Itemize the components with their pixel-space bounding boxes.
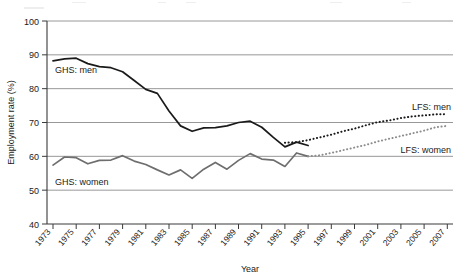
x-tick-label: 2007 <box>427 227 447 248</box>
x-tick-label: 1979 <box>102 227 122 248</box>
x-tick-label: 1995 <box>288 227 308 248</box>
x-tick-label: 1991 <box>241 227 261 248</box>
y-tick-label: 90 <box>29 50 39 60</box>
y-tick-labels: 100 90 80 70 60 50 40 <box>24 17 39 230</box>
x-tick-label: 1977 <box>79 227 99 248</box>
x-tick-label: 1987 <box>195 227 215 248</box>
x-tick-label: 1997 <box>311 227 331 248</box>
series-label-lfs-men: LFS: men <box>412 102 451 112</box>
series-label-lfs-women: LFS: women <box>400 145 451 155</box>
x-tick-labels: 1973 1975 1977 1979 1981 1983 1985 1987 … <box>33 227 447 248</box>
x-tick-label: 1999 <box>334 227 354 248</box>
x-tick-label: 1975 <box>56 227 76 248</box>
y-tick-marks <box>42 21 47 224</box>
x-tick-label: 1981 <box>126 227 146 248</box>
x-tick-label: 1985 <box>172 227 192 248</box>
series-label-ghs-men: GHS: men <box>55 65 97 75</box>
y-tick-label: 100 <box>24 17 39 27</box>
y-axis-title: Employment rate (%) <box>6 80 16 165</box>
x-tick-label: 2005 <box>404 227 424 248</box>
x-tick-label: 1993 <box>265 227 285 248</box>
x-tick-label: 1973 <box>33 227 53 248</box>
y-tick-label: 60 <box>29 152 39 162</box>
x-tick-label: 1989 <box>218 227 238 248</box>
x-tick-label: 1983 <box>149 227 169 248</box>
y-tick-label: 50 <box>29 186 39 196</box>
y-tick-label: 80 <box>29 84 39 94</box>
series-label-ghs-women: GHS: women <box>55 177 109 187</box>
employment-rate-chart: 100 90 80 70 60 50 40 Employment rate (%… <box>0 0 466 280</box>
y-tick-label: 40 <box>29 220 39 230</box>
x-tick-label: 2003 <box>381 227 401 248</box>
x-axis-title: Year <box>241 264 259 274</box>
x-tick-label: 2001 <box>357 227 377 248</box>
y-tick-label: 70 <box>29 118 39 128</box>
